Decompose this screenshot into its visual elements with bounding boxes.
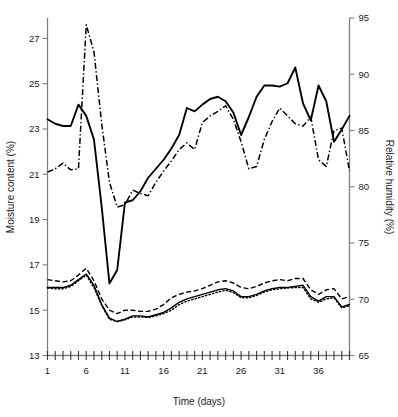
y-right-axis-title: Relative humidity (%) — [384, 140, 395, 234]
y-left-tick-label: 21 — [29, 169, 40, 180]
x-tick-label: 11 — [120, 365, 130, 376]
y-left-tick-label: 23 — [29, 123, 40, 134]
x-tick-label: 26 — [236, 365, 247, 376]
y-right-tick-label: 65 — [359, 350, 370, 361]
series-line-moisture-content-dotted — [48, 275, 350, 321]
x-axis-title: Time (days) — [173, 396, 225, 407]
y-right-tick-label: 70 — [359, 294, 370, 305]
y-left-tick-label: 25 — [29, 78, 40, 89]
y-right-tick-label: 95 — [359, 12, 370, 23]
x-tick-label: 21 — [197, 365, 208, 376]
axis-lines — [48, 18, 350, 356]
y-left-tick-label: 15 — [29, 305, 40, 316]
y-left-tick-label: 19 — [29, 214, 40, 225]
series-line-relative-humidity-dash-dot — [48, 25, 350, 207]
y-left-tick-label: 27 — [29, 33, 40, 44]
y-left-tick-label: 13 — [29, 350, 40, 361]
chart-container: 1315171921232527 65707580859095 16111621… — [0, 0, 398, 417]
x-tick-label: 36 — [313, 365, 324, 376]
series-line-moisture-content-dashed — [48, 268, 350, 313]
y-right-tick-label: 80 — [359, 181, 370, 192]
y-left-ticks: 1315171921232527 — [29, 33, 48, 361]
y-right-tick-label: 75 — [359, 237, 370, 248]
y-right-ticks: 65707580859095 — [349, 12, 369, 361]
x-tick-label: 31 — [275, 365, 286, 376]
x-tick-label: 6 — [84, 365, 89, 376]
y-right-tick-label: 90 — [359, 69, 370, 80]
series-line-relative-humidity-solid — [48, 68, 350, 284]
line-chart: 1315171921232527 65707580859095 16111621… — [0, 0, 398, 417]
y-right-tick-label: 85 — [359, 125, 370, 136]
x-tick-label: 1 — [45, 365, 50, 376]
series-layer — [48, 25, 350, 322]
y-left-tick-label: 17 — [29, 259, 40, 270]
x-ticks-major: 16111621263136 — [45, 365, 324, 376]
x-tick-label: 16 — [158, 365, 169, 376]
y-left-axis-title: Moisture content (%) — [5, 141, 16, 233]
